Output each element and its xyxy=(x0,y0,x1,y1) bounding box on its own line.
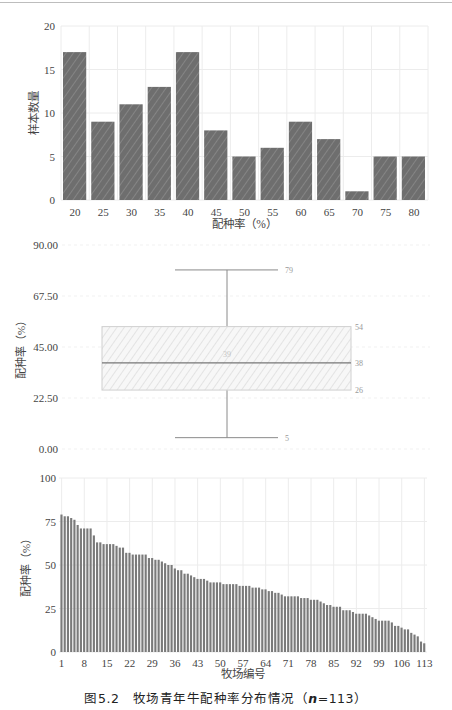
farm-bar xyxy=(251,588,253,652)
y-tick-label: 45.00 xyxy=(33,341,58,353)
farm-bar xyxy=(222,584,224,652)
y-axis-title: 配种率（%） xyxy=(14,315,27,379)
farm-bar xyxy=(164,563,166,652)
farm-bar xyxy=(125,553,127,652)
farm-bar xyxy=(90,528,92,652)
figure-caption: 图5.2 牧场青年牛配种率分布情况（n=113） xyxy=(0,688,452,707)
farm-bar xyxy=(326,605,328,652)
y-tick-label: 20 xyxy=(44,20,56,32)
x-tick-label: 106 xyxy=(393,657,410,669)
farm-bar xyxy=(77,525,79,652)
x-tick-label: 80 xyxy=(408,206,420,218)
x-tick-label: 29 xyxy=(147,657,159,669)
farm-bar xyxy=(141,555,143,652)
farm-bar xyxy=(407,629,409,652)
x-tick-label: 20 xyxy=(70,206,82,218)
farm-bar xyxy=(332,607,334,652)
caption-n-value: =113） xyxy=(318,691,368,706)
y-tick-label: 75 xyxy=(45,516,57,528)
x-tick-label: 99 xyxy=(374,657,386,669)
x-tick-label: 35 xyxy=(154,206,166,218)
x-tick-label: 70 xyxy=(352,206,364,218)
x-tick-label: 40 xyxy=(183,206,195,218)
value-annotation: 26 xyxy=(355,386,363,395)
farm-bar xyxy=(158,560,160,652)
farm-bar xyxy=(417,636,419,652)
histogram-bar xyxy=(345,191,368,200)
farm-bar xyxy=(83,528,85,652)
box-plot-chart: 0.0022.5045.0067.5090.0039795438265配种率（%… xyxy=(0,232,452,464)
farm-bar xyxy=(394,626,396,652)
farm-bar xyxy=(342,610,344,652)
farm-bar xyxy=(128,553,130,652)
y-axis-title: 配种率（%） xyxy=(19,533,32,597)
histogram-bar xyxy=(289,122,312,200)
x-tick-label: 8 xyxy=(82,657,88,669)
x-tick-label: 92 xyxy=(351,657,362,669)
farm-bar xyxy=(313,600,315,652)
farm-bar xyxy=(206,581,208,652)
farm-bar xyxy=(60,515,62,652)
farm-bar xyxy=(300,598,302,652)
farm-bar xyxy=(294,596,296,652)
farm-bar xyxy=(180,570,182,652)
farm-bar xyxy=(290,596,292,652)
farm-bar xyxy=(80,528,82,652)
farm-bar-chart: 0255075100181522293643505764717885929910… xyxy=(0,464,452,686)
histogram-bar xyxy=(402,157,425,201)
farm-bar xyxy=(138,555,140,652)
farm-bar xyxy=(404,629,406,652)
farm-bar xyxy=(242,586,244,652)
x-tick-label: 50 xyxy=(239,206,251,218)
farm-bar xyxy=(287,596,289,652)
histogram-bar xyxy=(176,52,199,200)
farm-bar xyxy=(219,582,221,652)
y-tick-label: 0.00 xyxy=(39,443,59,455)
farm-bar xyxy=(203,579,205,652)
farm-bar xyxy=(245,586,247,652)
histogram-bar xyxy=(91,122,114,200)
farm-bar xyxy=(255,588,257,652)
farm-bar xyxy=(154,560,156,652)
farm-bar xyxy=(213,582,215,652)
farm-bar xyxy=(329,605,331,652)
farm-bar xyxy=(413,635,415,652)
x-tick-label: 22 xyxy=(124,657,135,669)
farm-bar xyxy=(190,575,192,652)
x-tick-label: 65 xyxy=(324,206,336,218)
x-axis-title: 配种率（%） xyxy=(212,217,277,230)
farm-bar xyxy=(106,544,108,652)
farm-bar xyxy=(67,516,69,652)
x-tick-label: 15 xyxy=(101,657,113,669)
farm-bar xyxy=(371,617,373,652)
x-tick-label: 43 xyxy=(192,657,204,669)
farm-bar xyxy=(400,628,402,652)
farm-bar xyxy=(420,642,422,652)
farm-bar xyxy=(196,579,198,652)
farm-bar xyxy=(320,602,322,652)
farm-bar xyxy=(229,584,231,652)
farm-bar xyxy=(365,614,367,652)
farm-bar xyxy=(187,574,189,652)
center-label: 39 xyxy=(223,350,231,359)
histogram-chart: 0510152020253035404550556065707580配种率（%）… xyxy=(0,0,452,232)
histogram-bar xyxy=(261,148,284,200)
farm-bar xyxy=(216,582,218,652)
farm-bar xyxy=(261,589,263,652)
x-tick-label: 1 xyxy=(59,657,65,669)
farm-bar xyxy=(281,595,283,652)
x-tick-label: 75 xyxy=(380,206,392,218)
farm-bar xyxy=(362,614,364,652)
farm-bar xyxy=(96,542,98,652)
histogram-bar xyxy=(232,157,255,201)
x-tick-label: 113 xyxy=(416,657,433,669)
farm-bar xyxy=(410,633,412,652)
farm-bar xyxy=(352,612,354,652)
x-tick-label: 36 xyxy=(169,657,181,669)
y-tick-label: 0 xyxy=(51,646,57,658)
farm-bar xyxy=(297,596,299,652)
farm-bar xyxy=(70,518,72,652)
farm-bar xyxy=(307,598,309,652)
farm-bar xyxy=(99,542,101,652)
farm-bar xyxy=(391,622,393,652)
